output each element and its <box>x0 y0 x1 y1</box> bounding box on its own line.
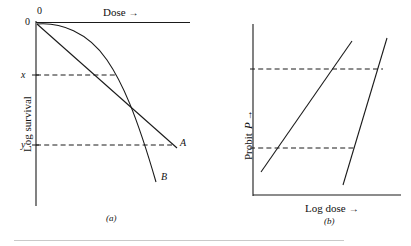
panel-a-x-axis-arrow-icon: → <box>129 7 139 18</box>
panel-a-origin-top-label: 0 <box>37 6 42 16</box>
panel-b-y-axis-symbol: P <box>242 122 254 129</box>
panel-a-curve-label-b: B <box>161 172 167 182</box>
page-rule <box>14 240 344 241</box>
panel-a-x-axis-label: Dose→ <box>103 7 139 18</box>
panel-a-curve-label-a: A <box>180 138 186 148</box>
panel-a-caption: (a) <box>106 214 117 223</box>
panel-a-origin-left-label: 0 <box>25 17 30 27</box>
panel-b-y-axis-arrow-icon: → <box>243 110 254 120</box>
panel-b-plot <box>231 0 411 215</box>
panel-a-tick-label-x: x <box>21 70 25 80</box>
panel-b-x-axis-label-text: Log dose <box>305 202 346 214</box>
panel-b-x-axis-arrow-icon: → <box>349 203 359 214</box>
figure-container: 0 0 Dose→ Log survival x y A B (a) Probi… <box>0 0 411 246</box>
panel-a-curve-a <box>37 24 177 148</box>
panel-b-y-axis-label-text: Probit <box>242 133 254 160</box>
panel-a-curve-b <box>37 24 156 182</box>
panel-a-tick-label-y: y <box>21 140 25 150</box>
panel-b-x-axis-label: Log dose→ <box>305 203 359 214</box>
panel-a-x-axis-label-text: Dose <box>103 6 126 18</box>
panel-b-y-axis-label: ProbitP→ <box>243 110 254 160</box>
panel-b-line-steep <box>343 38 387 185</box>
panel-b-line-shallow <box>261 41 352 172</box>
panel-b-caption: (b) <box>324 217 335 226</box>
